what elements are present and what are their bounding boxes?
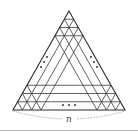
right-diagonal-line <box>116 102 121 110</box>
ellipsis-dot <box>90 56 92 58</box>
lattice-lines <box>18 19 121 110</box>
ellipsis-dot <box>74 104 76 106</box>
right-diagonal-line <box>41 36 83 110</box>
ellipsis-dot <box>46 56 48 58</box>
ellipsis-dot <box>40 66 42 68</box>
ellipsis-dot <box>96 66 98 68</box>
horizontal-rule <box>0 130 138 131</box>
left-diagonal-line <box>18 102 23 110</box>
left-diagonal-line <box>60 28 107 111</box>
ellipsis-dot <box>68 104 70 106</box>
ellipsis-dot <box>43 61 45 63</box>
ellipsis-dot <box>93 61 95 63</box>
triangle-lattice-diagram: n <box>0 0 138 135</box>
ellipsis-dot <box>62 104 64 106</box>
left-diagonal-line <box>55 36 97 110</box>
n-label: n <box>66 114 72 124</box>
right-diagonal-line <box>22 19 73 110</box>
right-diagonal-line <box>32 28 79 111</box>
left-diagonal-line <box>64 19 115 110</box>
